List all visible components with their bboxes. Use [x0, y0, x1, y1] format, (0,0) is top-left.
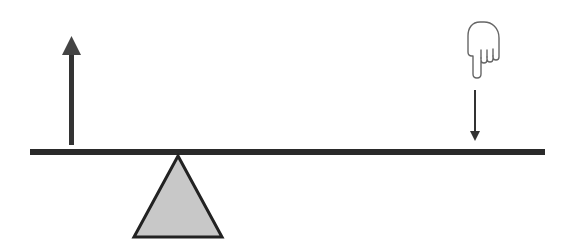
down-arrow-icon — [470, 90, 480, 141]
lever-beam — [30, 149, 545, 155]
hand-pointing-down-icon — [468, 22, 499, 78]
up-arrow-icon — [62, 36, 81, 145]
fulcrum-triangle — [134, 156, 222, 237]
lever-diagram — [0, 0, 573, 252]
